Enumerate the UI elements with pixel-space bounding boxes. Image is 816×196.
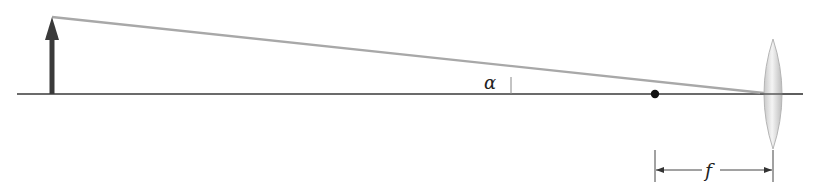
light-ray bbox=[52, 17, 773, 94]
focal-length-label: f bbox=[703, 159, 715, 181]
angle-label: α bbox=[484, 72, 496, 93]
object-arrow-icon bbox=[45, 17, 59, 94]
focal-point bbox=[651, 90, 659, 98]
focal-length-dimension bbox=[655, 150, 773, 182]
optics-diagram: α f bbox=[0, 0, 816, 196]
